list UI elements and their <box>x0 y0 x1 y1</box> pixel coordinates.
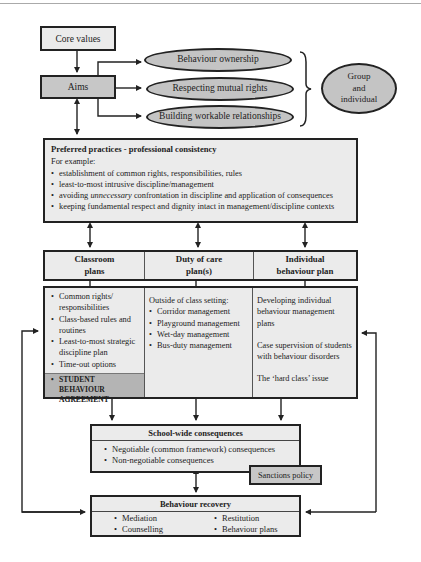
list-item: Common rights/ responsibilities <box>51 291 140 314</box>
school-wide-list: Negotiable (common framework) consequenc… <box>92 441 299 467</box>
oval-label: Respecting mutual rights <box>173 83 268 95</box>
individual-paragraph: The ‘hard class’ issue <box>257 373 352 384</box>
item-emphasis: unnecessary <box>90 191 131 200</box>
individual-paragraph: Case supervision of students with behavi… <box>257 340 352 363</box>
duty-list: Corridor management Playground managemen… <box>149 306 248 351</box>
preferred-practices-box: Preferred practices - professional consi… <box>43 138 358 223</box>
list-item: Class-based rules and routines <box>51 314 140 337</box>
individual-label: individual <box>341 94 378 106</box>
and-label: and <box>341 83 378 95</box>
list-item: Bus-duty management <box>149 340 248 351</box>
preferred-practices-intro: For example: <box>51 156 350 167</box>
list-item: least-to-most intrusive discipline/manag… <box>51 179 350 190</box>
duty-intro: Outside of class setting: <box>149 295 248 306</box>
oval-behaviour-ownership: Behaviour ownership <box>144 48 292 72</box>
individual-plan-column: Developing individual behaviour manageme… <box>253 288 356 397</box>
core-values-box: Core values <box>40 26 116 51</box>
header-line: Classroom <box>75 254 115 266</box>
list-item: establishment of common rights, responsi… <box>51 168 350 179</box>
list-item: keeping fundamental respect and dignity … <box>51 201 350 212</box>
agreement-label: STUDENT BEHAVIOUR AGREEMENT <box>51 375 140 405</box>
header-line: Individual <box>277 254 334 266</box>
duty-of-care-column: Outside of class setting: Corridor manag… <box>145 288 253 397</box>
preferred-practices-list: establishment of common rights, responsi… <box>51 168 350 213</box>
oval-building-workable-relationships: Building workable relationships <box>146 105 294 129</box>
sanctions-policy-label: Sanctions policy <box>258 471 313 480</box>
preferred-practices-title: Preferred practices - professional consi… <box>51 144 350 155</box>
behaviour-recovery-box: Behaviour recovery Mediation Restitution… <box>90 495 301 537</box>
list-item: Counselling <box>114 524 214 535</box>
core-values-label: Core values <box>55 34 100 44</box>
classroom-plans-list: Common rights/ responsibilities Class-ba… <box>45 288 144 372</box>
sanctions-policy-box: Sanctions policy <box>249 465 322 485</box>
item-text: confrontation in discipline and applicat… <box>132 191 333 200</box>
oval-label: Building workable relationships <box>159 111 281 123</box>
list-item: Wet-day management <box>149 329 248 340</box>
list-item: avoiding unnecessary confrontation in di… <box>51 190 350 201</box>
header-line: plan(s) <box>176 266 222 278</box>
oval-label: Behaviour ownership <box>177 54 259 66</box>
group-label: Group <box>341 71 378 83</box>
list-item: Mediation <box>114 513 214 524</box>
plan-contents: Common rights/ responsibilities Class-ba… <box>43 286 358 399</box>
list-item: Playground management <box>149 318 248 329</box>
plan-headers: Classroomplans Duty of careplan(s) Indiv… <box>43 250 358 281</box>
list-item: Least-to-most strategic discipline plan <box>51 336 140 359</box>
list-item: Negotiable (common framework) consequenc… <box>104 444 299 455</box>
aims-label: Aims <box>68 82 89 92</box>
list-item: Restitution <box>214 513 314 524</box>
list-item: Behaviour plans <box>214 524 314 535</box>
aims-box: Aims <box>40 75 116 99</box>
header-line: Duty of care <box>176 254 222 266</box>
behaviour-recovery-title: Behaviour recovery <box>92 497 299 512</box>
header-individual-behaviour-plan: Individualbehaviour plan <box>254 252 356 279</box>
header-classroom-plans: Classroomplans <box>45 252 145 279</box>
group-and-individual-oval: Group and individual <box>321 63 397 114</box>
student-behaviour-agreement: STUDENT BEHAVIOUR AGREEMENT <box>45 373 144 397</box>
school-wide-title: School-wide consequences <box>92 426 299 441</box>
header-line: plans <box>75 266 115 278</box>
header-duty-of-care-plans: Duty of careplan(s) <box>145 252 254 279</box>
list-item: Time-out options <box>51 359 140 370</box>
header-line: behaviour plan <box>277 266 334 278</box>
list-item: Corridor management <box>149 306 248 317</box>
item-text: avoiding <box>59 191 90 200</box>
oval-respecting-mutual-rights: Respecting mutual rights <box>146 77 294 101</box>
behaviour-recovery-list: Mediation Restitution Counselling Behavi… <box>92 512 299 535</box>
individual-paragraph: Developing individual behaviour manageme… <box>257 295 352 329</box>
classroom-plans-column: Common rights/ responsibilities Class-ba… <box>45 288 145 397</box>
